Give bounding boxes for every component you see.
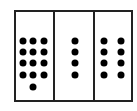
divider-line [53, 10, 55, 102]
dot [20, 49, 27, 56]
dot [30, 38, 37, 45]
dot [30, 49, 37, 56]
dot [20, 38, 27, 45]
dot [101, 60, 108, 67]
dot-panels-diagram [0, 0, 137, 111]
dot [30, 60, 37, 67]
dot [101, 72, 108, 79]
dot [30, 84, 37, 91]
dot [30, 72, 37, 79]
dot [72, 38, 79, 45]
dot [41, 60, 48, 67]
dot [72, 72, 79, 79]
dot [118, 38, 125, 45]
dot [41, 38, 48, 45]
dot [72, 49, 79, 56]
dot [118, 49, 125, 56]
dot [72, 60, 79, 67]
dot [101, 49, 108, 56]
dot [41, 72, 48, 79]
dot [41, 49, 48, 56]
dot [20, 72, 27, 79]
dot [118, 72, 125, 79]
dot [118, 60, 125, 67]
divider-line [93, 10, 95, 102]
dot [101, 38, 108, 45]
dot [20, 60, 27, 67]
